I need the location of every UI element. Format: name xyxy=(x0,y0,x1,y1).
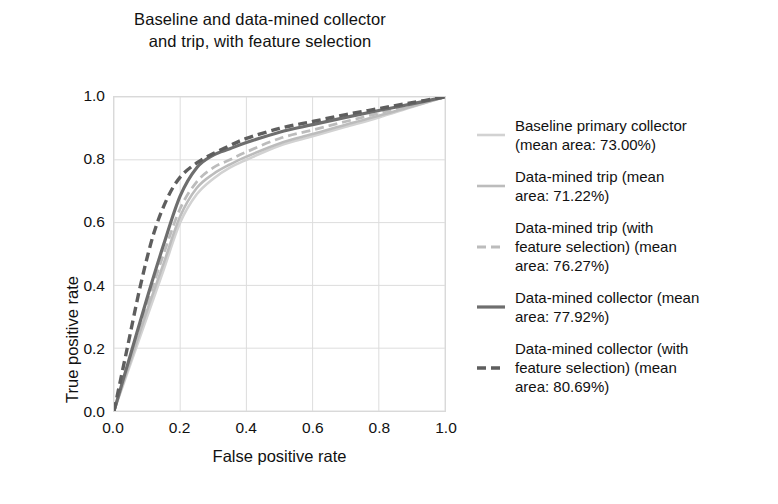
plot-area xyxy=(113,96,446,412)
roc-chart-figure: Baseline and data-mined collector and tr… xyxy=(0,0,778,504)
legend-item-4[interactable]: Data-mined collector (with feature selec… xyxy=(476,339,774,396)
chart-legend: Baseline primary collector (mean area: 7… xyxy=(476,116,774,409)
y-axis-tick-label: 0.4 xyxy=(53,277,105,295)
x-axis-tick-label: 0.0 xyxy=(83,419,143,437)
legend-item-label: Baseline primary collector (mean area: 7… xyxy=(515,116,687,154)
legend-item-2[interactable]: Data-mined trip (with feature selection)… xyxy=(476,218,774,275)
legend-item-3[interactable]: Data-mined collector (mean area: 77.92%) xyxy=(476,288,774,326)
legend-item-1[interactable]: Data-mined trip (mean area: 71.22%) xyxy=(476,167,774,205)
x-axis-tick-label: 0.6 xyxy=(283,419,343,437)
legend-line-sample-icon xyxy=(476,359,506,377)
x-axis-tick-labels: 0.00.20.40.60.81.0 xyxy=(113,419,446,443)
legend-item-label: Data-mined trip (with feature selection)… xyxy=(515,218,677,275)
y-axis-tick-label: 0.2 xyxy=(53,340,105,358)
legend-item-label: Data-mined collector (with feature selec… xyxy=(515,339,688,396)
page-title: Baseline and data-mined collector and tr… xyxy=(60,8,460,52)
x-axis-tick-label: 0.8 xyxy=(349,419,409,437)
x-axis-title: False positive rate xyxy=(113,447,446,466)
x-axis-tick-label: 0.2 xyxy=(150,419,210,437)
y-axis-tick-labels: 0.00.20.40.60.81.0 xyxy=(47,96,105,412)
y-axis-tick-label: 0.6 xyxy=(53,213,105,231)
legend-line-sample-icon xyxy=(476,298,506,316)
legend-item-0[interactable]: Baseline primary collector (mean area: 7… xyxy=(476,116,774,154)
x-axis-tick-label: 0.4 xyxy=(216,419,276,437)
chart-title-line-1: Baseline and data-mined collector xyxy=(60,8,460,30)
roc-curves xyxy=(114,97,445,411)
legend-line-sample-icon xyxy=(476,238,506,256)
y-axis-tick-label: 1.0 xyxy=(53,87,105,105)
roc-curve-series-1 xyxy=(114,97,445,411)
legend-item-label: Data-mined collector (mean area: 77.92%) xyxy=(515,288,699,326)
y-axis-tick-label: 0.8 xyxy=(53,150,105,168)
legend-line-sample-icon xyxy=(476,177,506,195)
x-axis-tick-label: 1.0 xyxy=(416,419,476,437)
legend-item-label: Data-mined trip (mean area: 71.22%) xyxy=(515,167,664,205)
legend-line-sample-icon xyxy=(476,126,506,144)
chart-title-line-2: and trip, with feature selection xyxy=(60,30,460,52)
